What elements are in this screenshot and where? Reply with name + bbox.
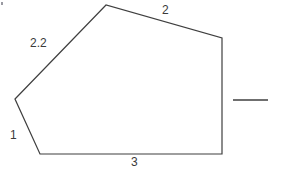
corner-artifact-mark: [1, 2, 3, 5]
figure-drawing-surface: [0, 0, 281, 174]
side-length-label-bottom: 3: [131, 156, 138, 168]
pentagon-shape: [15, 5, 222, 154]
side-length-label-lower-left: 1: [10, 129, 17, 141]
side-length-label-upper-left: 2.2: [30, 37, 47, 49]
side-length-label-upper-right: 2: [162, 4, 169, 16]
geometry-figure-canvas: 2.2 2 1 3: [0, 0, 281, 174]
